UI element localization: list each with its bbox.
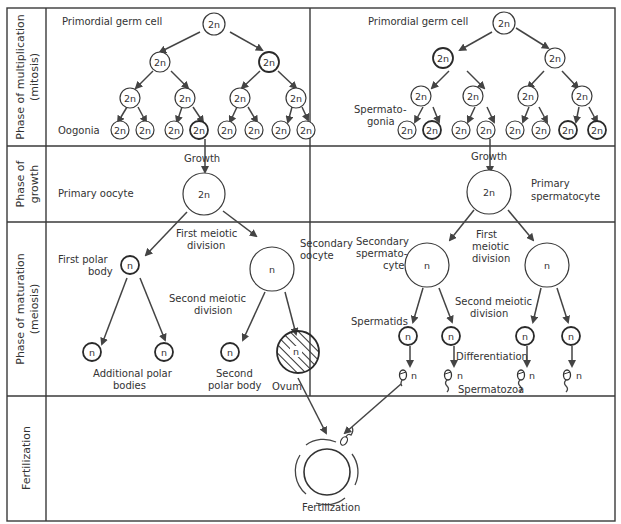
svg-text:n: n xyxy=(448,331,454,342)
svg-text:n: n xyxy=(89,347,95,358)
fertilized-egg-icon xyxy=(295,427,358,505)
oo-second-meiotic-label-1: Second meiotic xyxy=(169,293,246,304)
sp-mitosis-cell: 2n xyxy=(518,86,538,106)
svg-text:2n: 2n xyxy=(483,187,495,198)
primary-oocyte-label: Primary oocyte xyxy=(58,188,134,199)
sp-first-meiotic-label-1: First xyxy=(476,229,497,240)
spermatogonia-label-1: Spermato- xyxy=(354,104,407,115)
oogonium-cell: 2n xyxy=(272,121,290,139)
svg-text:2n: 2n xyxy=(114,125,126,136)
secondary-spermatocyte-label-1: Secondary xyxy=(356,236,409,247)
svg-text:2n: 2n xyxy=(234,93,246,104)
first-polar-body-label-1: First polar xyxy=(58,254,109,265)
phase-growth-text: Phase of xyxy=(14,159,27,207)
additional-polar-label-1: Additional polar xyxy=(93,368,173,379)
svg-text:2n: 2n xyxy=(467,91,479,102)
ovum-label: Ovum xyxy=(272,381,302,392)
svg-text:2n: 2n xyxy=(522,91,534,102)
phase-maturation-text: Phase of maturation xyxy=(14,253,27,365)
sp-mitosis-cell: 2n xyxy=(463,86,483,106)
svg-text:2n: 2n xyxy=(139,125,151,136)
spermatogonium-cell: 2n xyxy=(477,121,495,139)
second-polar-label-1: Second xyxy=(216,368,253,379)
phase-label-fertilization: Fertilization xyxy=(20,426,33,490)
spermatogenesis-maturation: First meiotic division Secondary spermat… xyxy=(351,210,582,395)
svg-text:2n: 2n xyxy=(509,125,521,136)
svg-text:n: n xyxy=(269,264,275,275)
oogenesis-maturation: First meiotic division First polar body … xyxy=(58,211,353,392)
phase-label-multiplication: Phase of multiplication (mitosis) xyxy=(14,14,41,140)
primary-spermatocyte-cell: 2n xyxy=(467,170,511,214)
spermatogenesis-growth: Growth Primary spermatocyte 2n xyxy=(467,139,600,214)
svg-text:2n: 2n xyxy=(437,53,449,64)
phase-growth-subtext: growth xyxy=(28,165,41,203)
svg-text:2n: 2n xyxy=(248,125,260,136)
gametogenesis-diagram: Phase of multiplication (mitosis) Phase … xyxy=(0,0,621,524)
sp-mitosis-cell: 2n xyxy=(411,86,431,106)
oogonium-cell: 2n xyxy=(190,121,208,139)
spermatozoon-icon: n xyxy=(564,370,583,393)
svg-text:2n: 2n xyxy=(591,125,603,136)
oogonium-cell: 2n xyxy=(111,121,129,139)
svg-text:2n: 2n xyxy=(549,53,561,64)
spermatogonium-cell: 2n xyxy=(532,121,550,139)
svg-text:n: n xyxy=(411,370,417,381)
svg-text:n: n xyxy=(544,260,550,271)
svg-text:n: n xyxy=(457,370,463,381)
svg-text:2n: 2n xyxy=(154,57,166,68)
additional-polar-label-2: bodies xyxy=(113,380,146,391)
svg-text:2n: 2n xyxy=(576,91,588,102)
oogonia-label: Oogonia xyxy=(58,125,100,136)
spermatogonium-cell: 2n xyxy=(588,121,606,139)
differentiation-label: Differentiation xyxy=(456,351,528,362)
svg-text:2n: 2n xyxy=(193,125,205,136)
svg-text:2n: 2n xyxy=(290,93,302,104)
secondary-oocyte-cell: n xyxy=(250,247,294,291)
spermatogonium-cell: 2n xyxy=(506,121,524,139)
sp-growth-label: Growth xyxy=(471,151,507,162)
oo-mitosis-cell: 2n xyxy=(286,88,306,108)
first-polar-body-cell: n xyxy=(121,256,139,274)
secondary-oocyte-label-1: Secondary xyxy=(300,238,353,249)
oogonium-cell: 2n xyxy=(245,121,263,139)
sp-first-meiotic-label-2: meiotic xyxy=(472,241,509,252)
oo-primordial-label: Primordial germ cell xyxy=(62,16,162,27)
svg-text:2n: 2n xyxy=(480,125,492,136)
oo-mitosis-cell: 2n xyxy=(150,52,170,72)
sp-mitosis-cell: 2n xyxy=(433,48,453,68)
svg-text:n: n xyxy=(293,346,299,357)
spermatogonium-cell: 2n xyxy=(398,121,416,139)
oo-primordial-cell: 2n xyxy=(203,13,225,35)
svg-text:2n: 2n xyxy=(263,57,275,68)
phase-multiplication-text: Phase of multiplication xyxy=(14,14,27,140)
svg-text:2n: 2n xyxy=(401,125,413,136)
oo-first-meiotic-label-2: division xyxy=(187,240,225,251)
svg-text:2n: 2n xyxy=(198,189,210,200)
sp-second-meiotic-label-2: division xyxy=(470,308,508,319)
oo-mitosis-cell: 2n xyxy=(259,52,279,72)
oogenesis-multiplication: Primordial germ cell 2n 2n 2n 2n 2n 2n 2… xyxy=(58,13,315,139)
svg-text:2n: 2n xyxy=(498,18,510,29)
oogonium-cell: 2n xyxy=(165,121,183,139)
secondary-spermatocyte-cell: n xyxy=(405,243,449,287)
secondary-spermatocyte-label-3: cyte xyxy=(383,260,405,271)
secondary-spermatocyte-label-2: spermato- xyxy=(356,248,408,259)
phase-maturation-subtext: (meiosis) xyxy=(28,284,41,334)
secondary-spermatocyte-cell: n xyxy=(525,243,569,287)
spermatid-cell: n xyxy=(562,327,580,345)
spermatogenesis-multiplication: Primordial germ cell 2n 2n 2n 2n 2n 2n 2… xyxy=(354,12,606,139)
phase-fertilization-text: Fertilization xyxy=(20,426,33,490)
svg-text:2n: 2n xyxy=(221,125,233,136)
spermatogonium-cell: 2n xyxy=(423,121,441,139)
svg-text:2n: 2n xyxy=(535,125,547,136)
additional-polar-body-cell: n xyxy=(83,343,101,361)
oogonium-cell: 2n xyxy=(136,121,154,139)
svg-text:n: n xyxy=(227,347,233,358)
spermatids-label: Spermatids xyxy=(351,316,408,327)
oogenesis-growth: Growth Primary oocyte 2n xyxy=(58,139,225,215)
spermatogonia-label-2: gonia xyxy=(367,116,395,127)
oo-growth-label: Growth xyxy=(184,153,220,164)
svg-text:2n: 2n xyxy=(168,125,180,136)
oogonium-cell: 2n xyxy=(218,121,236,139)
oo-mitosis-cell: 2n xyxy=(230,88,250,108)
